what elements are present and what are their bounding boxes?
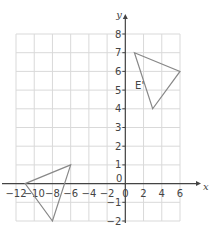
y-tick-label: 5 <box>115 85 121 96</box>
x-tick-label: 6 <box>177 188 183 199</box>
y-tick-label: 6 <box>115 66 121 77</box>
triangle-E-prime-label: E' <box>135 80 144 91</box>
x-axis-name: x <box>203 181 209 192</box>
coordinate-grid-diagram: xy −12−10−8−6−4−20246−2−1012345678 E' <box>0 0 212 232</box>
x-axis-arrow-icon <box>196 181 201 186</box>
y-tick-label: 1 <box>115 159 121 170</box>
x-tick-label: 2 <box>140 188 146 199</box>
y-tick-label: 7 <box>115 47 121 58</box>
y-tick-label: 4 <box>115 103 121 114</box>
x-tick-label: 0 <box>122 188 128 199</box>
x-tick-label: −8 <box>45 188 60 199</box>
x-tick-label: 4 <box>159 188 165 199</box>
y-axis-arrow-icon <box>123 14 128 19</box>
y-tick-label: 0 <box>116 173 122 184</box>
y-tick-label: 2 <box>115 141 121 152</box>
y-tick-label: −2 <box>107 216 122 227</box>
y-tick-label: 3 <box>115 122 121 133</box>
y-axis-name: y <box>115 9 122 20</box>
x-tick-label: −6 <box>63 188 78 199</box>
y-tick-label: 8 <box>115 29 121 40</box>
x-tick-label: −4 <box>82 188 97 199</box>
y-tick-label: −1 <box>107 197 122 208</box>
